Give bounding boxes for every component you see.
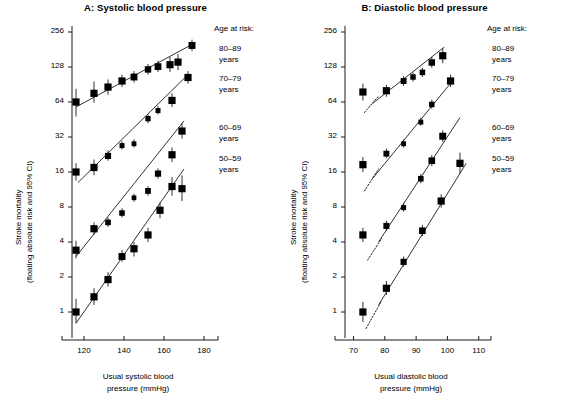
x-tick-label: 140	[109, 346, 139, 355]
series-60-69------	[359, 118, 460, 260]
y-tick-label: 64	[40, 96, 64, 105]
x-tick-label: 90	[401, 346, 431, 355]
x-tick-label: 100	[432, 346, 462, 355]
y-tick-label: 64	[313, 96, 337, 105]
series-50-59------	[359, 153, 466, 329]
y-tick-label: 256	[313, 26, 337, 35]
panel-systolic: A: Systolic blood pressure Stroke mortal…	[0, 0, 281, 403]
x-tick-label: 180	[189, 346, 219, 355]
series-80-89------	[72, 40, 195, 117]
y-tick-label: 8	[40, 201, 64, 210]
y-tick-label: 2	[40, 271, 64, 280]
y-tick-label: 4	[40, 236, 64, 245]
panel-diastolic: B: Diastolic blood pressure Stroke morta…	[281, 0, 562, 403]
x-tick-label: 120	[69, 346, 99, 355]
x-tick-label: 110	[464, 346, 494, 355]
y-tick-label: 128	[313, 61, 337, 70]
x-tick-label: 70	[339, 346, 369, 355]
y-tick-label: 1	[40, 306, 64, 315]
y-tick-label: 32	[313, 131, 337, 140]
x-tick-label: 160	[149, 346, 179, 355]
y-tick-label: 4	[313, 236, 337, 245]
y-tick-label: 32	[40, 131, 64, 140]
y-tick-label: 16	[313, 166, 337, 175]
y-tick-label: 128	[40, 61, 64, 70]
x-tick-label: 80	[370, 346, 400, 355]
y-tick-label: 256	[40, 26, 64, 35]
figure-root: A: Systolic blood pressure Stroke mortal…	[0, 0, 562, 403]
series-50-59------	[72, 169, 185, 323]
y-tick-label: 8	[313, 201, 337, 210]
y-tick-label: 2	[313, 271, 337, 280]
series-70-79------	[72, 71, 191, 182]
y-tick-label: 1	[313, 306, 337, 315]
y-tick-label: 16	[40, 166, 64, 175]
